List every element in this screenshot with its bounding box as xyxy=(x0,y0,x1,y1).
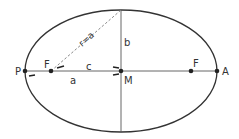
label-radius: r=a xyxy=(77,30,96,49)
label-focus-left: F xyxy=(44,59,50,70)
arrow-c-right xyxy=(113,67,119,68)
point-center xyxy=(119,69,124,74)
label-b: b xyxy=(124,37,130,48)
label-p: P xyxy=(15,66,21,77)
arrow-a-left xyxy=(29,75,35,76)
arrow-a-right xyxy=(113,74,119,75)
label-a-point: A xyxy=(222,66,229,77)
arrow-c-left xyxy=(57,66,64,68)
label-c: c xyxy=(86,61,92,72)
label-a: a xyxy=(70,75,76,86)
label-m: M xyxy=(124,75,133,86)
point-focus-right xyxy=(189,69,194,74)
point-a xyxy=(215,69,220,74)
label-focus-right: F xyxy=(193,58,199,69)
point-p xyxy=(23,69,28,74)
ellipse-diagram: P F c a M b F A r=a xyxy=(0,0,239,139)
